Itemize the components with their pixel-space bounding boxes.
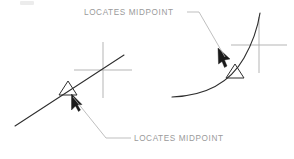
drawing-canvas: LOCATES MIDPOINT LOCATES MIDPOINT <box>0 0 294 159</box>
arc-object <box>172 13 260 97</box>
right-panel-group: LOCATES MIDPOINT <box>84 8 287 97</box>
line-object <box>15 55 124 126</box>
label-locates-midpoint-bottom: LOCATES MIDPOINT <box>134 134 224 143</box>
leader-line-bottom <box>73 97 131 138</box>
crosshair-cursor-left <box>74 42 132 98</box>
left-panel-group: LOCATES MIDPOINT <box>15 42 224 143</box>
pointer-arrow-left <box>72 94 83 112</box>
label-locates-midpoint-top: LOCATES MIDPOINT <box>84 8 174 17</box>
midpoint-triangle-left <box>59 81 77 95</box>
midpoint-snap-figure: LOCATES MIDPOINT LOCATES MIDPOINT <box>0 0 294 159</box>
pointer-arrow-right <box>218 48 230 68</box>
scan-artifact <box>20 1 34 5</box>
midpoint-marker-left <box>59 81 77 95</box>
